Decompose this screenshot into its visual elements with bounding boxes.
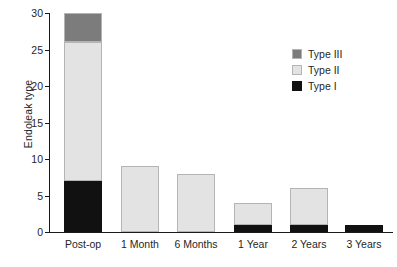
bar-segment-type-ii bbox=[290, 188, 328, 225]
bar-segment-type-ii bbox=[234, 203, 272, 225]
bar-segment-type-iii bbox=[64, 13, 102, 42]
bar-1-month[interactable] bbox=[121, 166, 159, 232]
legend-item-type-ii[interactable]: Type II bbox=[292, 62, 342, 78]
legend-swatch-type-iii bbox=[292, 49, 302, 59]
bar-segment-type-ii bbox=[64, 42, 102, 181]
y-tick-label: 20 bbox=[31, 80, 43, 92]
bar-3-years[interactable] bbox=[345, 225, 383, 232]
legend-label-type-i: Type I bbox=[308, 80, 337, 92]
bar-segment-type-ii bbox=[121, 166, 159, 232]
bar-6-months[interactable] bbox=[177, 174, 215, 232]
bar-post-op[interactable] bbox=[64, 13, 102, 232]
x-label-3-years: 3 Years bbox=[329, 238, 397, 250]
bar-segment-type-i bbox=[290, 225, 328, 232]
legend-swatch-type-ii bbox=[292, 65, 302, 75]
y-tick-label: 30 bbox=[31, 7, 43, 19]
y-tick-mark bbox=[45, 13, 49, 14]
legend-item-type-i[interactable]: Type I bbox=[292, 78, 342, 94]
legend-item-type-iii[interactable]: Type III bbox=[292, 46, 342, 62]
y-tick-mark bbox=[45, 196, 49, 197]
bar-segment-type-ii bbox=[177, 174, 215, 232]
y-tick-mark bbox=[45, 159, 49, 160]
bar-1-year[interactable] bbox=[234, 203, 272, 232]
y-tick-label: 0 bbox=[37, 226, 43, 238]
y-tick-mark bbox=[45, 232, 49, 233]
y-tick-mark bbox=[45, 86, 49, 87]
y-tick-label: 15 bbox=[31, 117, 43, 129]
bar-segment-type-i bbox=[345, 225, 383, 232]
legend: Type III Type II Type I bbox=[292, 46, 342, 94]
y-tick-label: 5 bbox=[37, 190, 43, 202]
legend-label-type-iii: Type III bbox=[308, 48, 342, 60]
y-tick-mark bbox=[45, 50, 49, 51]
bar-2-years[interactable] bbox=[290, 188, 328, 232]
legend-label-type-ii: Type II bbox=[308, 64, 340, 76]
legend-swatch-type-i bbox=[292, 81, 302, 91]
y-tick-label: 10 bbox=[31, 153, 43, 165]
y-tick-mark bbox=[45, 123, 49, 124]
y-axis-line bbox=[49, 13, 50, 233]
bar-segment-type-i bbox=[64, 181, 102, 232]
bar-segment-type-i bbox=[234, 225, 272, 232]
y-tick-label: 25 bbox=[31, 44, 43, 56]
x-axis-line bbox=[49, 232, 393, 233]
endoleak-type-bar-chart: Endoleak type 30 25 20 15 10 5 bbox=[0, 0, 397, 267]
